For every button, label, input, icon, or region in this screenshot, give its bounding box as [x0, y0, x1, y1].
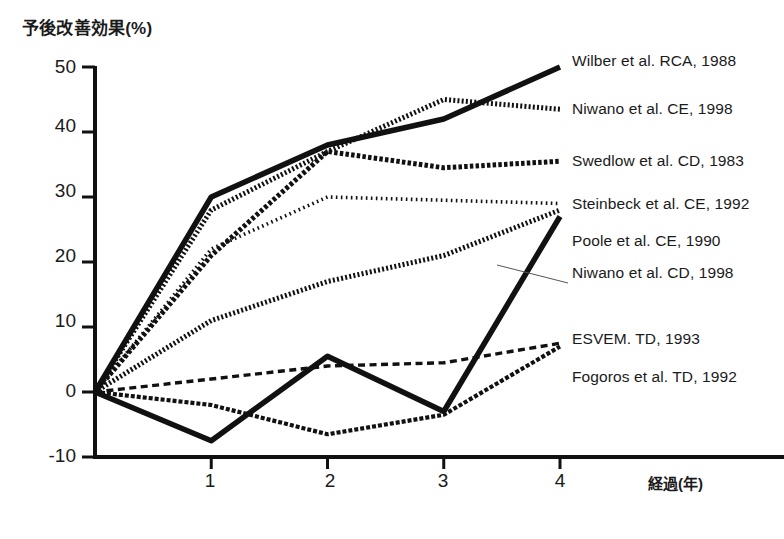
plot-area	[0, 0, 784, 539]
series-line-wilber-et-al-rca-1988	[95, 67, 560, 392]
axis-ticks	[82, 67, 560, 469]
axis-lines	[93, 66, 784, 459]
series-line-steinbeck-et-al-ce-1992	[95, 197, 560, 392]
series-line-unlabeled-solid-bottom	[95, 217, 560, 441]
prognosis-improvement-line-chart: 予後改善効果(%) 経過(年) 50 40 30 20 10 0 -10 1 2…	[0, 0, 784, 539]
series-lines	[95, 67, 560, 441]
